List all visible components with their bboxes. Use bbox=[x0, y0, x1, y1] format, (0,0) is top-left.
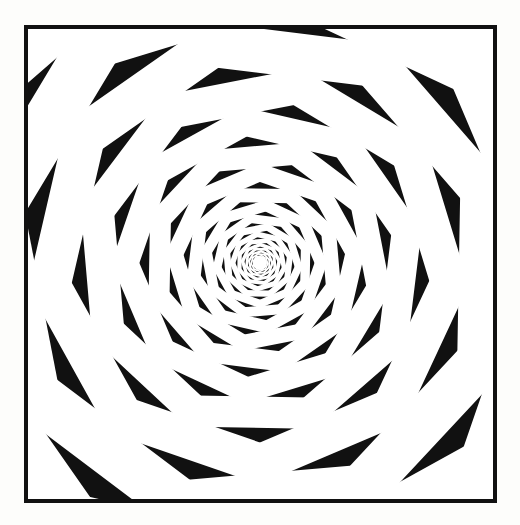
center-dot bbox=[253, 256, 267, 270]
spiral-illusion-graphic bbox=[24, 25, 497, 503]
page-root bbox=[0, 0, 520, 525]
spiral-illusion-plate bbox=[24, 25, 497, 503]
